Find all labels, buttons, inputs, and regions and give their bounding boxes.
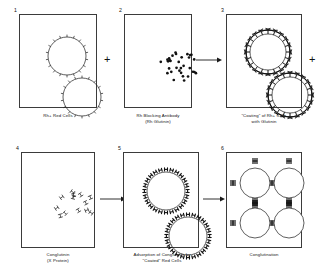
panel-4-number: 4	[16, 146, 19, 151]
panel-5-caption: Adsorption of Conglutinin by "Coated" Re…	[112, 252, 212, 264]
panel-2-number: 2	[119, 8, 122, 13]
connector-arrow-3	[203, 195, 225, 203]
panel-5	[123, 152, 199, 248]
panel-6-artwork	[227, 153, 301, 247]
panel-1-number: 1	[14, 8, 17, 13]
connector-plus-1: +	[104, 54, 110, 65]
diagram-row-bottom: 4 Conglutinin (X Protein) 5 Adsorption o…	[0, 138, 328, 277]
connector-arrow-1	[196, 56, 222, 64]
panel-5-number: 5	[118, 146, 121, 151]
panel-3-artwork	[227, 15, 301, 107]
diagram-row-top: 1 Rh+ Red Cells + 2 Rh Blocking Antibody…	[0, 0, 328, 138]
panel-1-artwork	[20, 15, 96, 107]
panel-3-caption: "Coating" of Rh+ Cells with Glutinin	[214, 113, 314, 125]
panel-4	[21, 152, 95, 248]
panel-4-artwork	[22, 153, 94, 247]
panel-6-number: 6	[221, 146, 224, 151]
panel-3-number: 3	[221, 8, 224, 13]
connector-plus-2: +	[309, 54, 315, 65]
panel-5-artwork	[124, 153, 198, 247]
panel-6-caption: Conglutination	[222, 252, 306, 258]
panel-1	[19, 14, 97, 108]
panel-1-caption: Rh+ Red Cells	[10, 113, 106, 119]
panel-2-caption: Rh Blocking Antibody (Rh Glutinin)	[112, 113, 204, 125]
panel-3	[226, 14, 302, 108]
panel-2	[124, 14, 192, 108]
panel-6	[226, 152, 302, 248]
panel-4-caption: Conglutinin (X Protein)	[12, 252, 104, 264]
panel-2-artwork	[125, 15, 191, 107]
conglutination-diagram: 1 Rh+ Red Cells + 2 Rh Blocking Antibody…	[0, 0, 328, 277]
